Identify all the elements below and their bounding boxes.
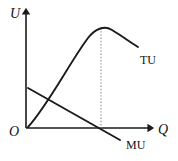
marginal-utility-line — [28, 88, 120, 140]
q-axis-label: Q — [158, 122, 168, 137]
tu-curve-label: TU — [140, 53, 156, 67]
figure-canvas: U Q O TU MU — [0, 0, 178, 161]
mu-curve-label: MU — [126, 138, 146, 152]
total-utility-curve — [28, 28, 138, 127]
utility-curve-figure: U Q O TU MU — [0, 0, 178, 161]
u-axis-label: U — [10, 6, 21, 21]
origin-label: O — [9, 124, 19, 139]
